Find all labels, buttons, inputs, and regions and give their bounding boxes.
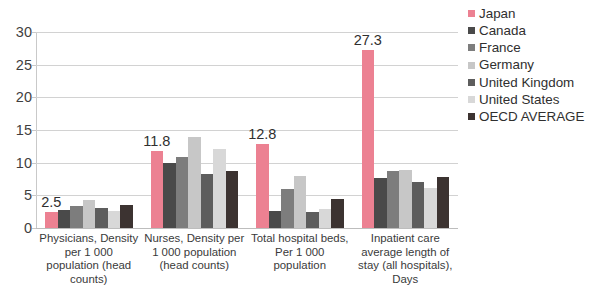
bar-group: 12.8 [247, 32, 353, 228]
bar-united-kingdom[interactable] [412, 182, 425, 228]
bar-united-kingdom[interactable] [201, 174, 214, 228]
bar-canada[interactable] [374, 178, 387, 228]
x-axis-label-line: average length of [355, 246, 457, 260]
y-axis: 302520151050 [0, 0, 36, 240]
x-axis-label-line: stay (all hospitals), [355, 259, 457, 273]
bar-japan[interactable] [45, 212, 58, 228]
x-axis-label: Nurses, Density per1 000 population(head… [142, 232, 248, 286]
y-tick-label: 0 [24, 221, 32, 236]
legend-item-france[interactable]: France [468, 39, 614, 56]
bar-groups: 2.511.812.827.3 [36, 32, 458, 228]
bar-group: 27.3 [353, 32, 459, 228]
x-axis-label-line: Per 1 000 [249, 246, 351, 260]
bar-france[interactable] [281, 189, 294, 228]
legend-swatch-icon [468, 44, 475, 51]
legend-swatch-icon [468, 27, 475, 34]
x-axis-label-line: Physicians, Density [38, 232, 140, 246]
legend-item-japan[interactable]: Japan [468, 5, 614, 22]
bar-germany[interactable] [188, 137, 201, 228]
bar-group: 2.5 [36, 32, 142, 228]
legend: JapanCanadaFranceGermanyUnited KingdomUn… [468, 5, 614, 125]
y-tick-label: 25 [16, 57, 32, 72]
bar-japan[interactable] [151, 151, 164, 228]
x-axis-label-line: Days [355, 273, 457, 287]
y-tick-label: 5 [24, 188, 32, 203]
x-axis-label-line: counts) [38, 273, 140, 287]
legend-label: Japan [479, 7, 515, 20]
bar-germany[interactable] [399, 170, 412, 228]
bar-japan[interactable] [362, 50, 375, 228]
x-axis-label: Physicians, Densityper 1 000population (… [36, 232, 142, 286]
x-axis-label-line: population [249, 259, 351, 273]
bar-oecd-average[interactable] [120, 205, 133, 228]
x-axis-label-line: (head counts) [144, 259, 246, 273]
legend-label: OECD AVERAGE [479, 110, 584, 123]
bar-value-label: 27.3 [354, 33, 382, 48]
legend-item-united-kingdom[interactable]: United Kingdom [468, 74, 614, 91]
bar-united-kingdom[interactable] [306, 212, 319, 228]
x-axis-label: Total hospital beds,Per 1 000population [247, 232, 353, 286]
bars [142, 32, 248, 228]
legend-label: Canada [479, 24, 526, 37]
legend-swatch-icon [468, 10, 475, 17]
bar-united-kingdom[interactable] [95, 208, 108, 228]
legend-item-canada[interactable]: Canada [468, 22, 614, 39]
bar-value-label: 12.8 [248, 127, 276, 142]
legend-label: United States [479, 93, 559, 106]
legend-swatch-icon [468, 113, 475, 120]
legend-label: United Kingdom [479, 76, 574, 89]
x-axis-label-line: Nurses, Density per [144, 232, 246, 246]
bar-united-states[interactable] [108, 211, 121, 228]
bar-germany[interactable] [83, 200, 96, 228]
x-axis-label-line: population (head [38, 259, 140, 273]
bar-japan[interactable] [256, 144, 269, 228]
y-tick-label: 20 [16, 90, 32, 105]
x-axis-category-labels: Physicians, Densityper 1 000population (… [36, 232, 458, 286]
plot-area: 2.511.812.827.3 [36, 32, 458, 228]
bar-oecd-average[interactable] [437, 177, 450, 228]
y-tickmark [32, 228, 36, 229]
y-tick-label: 10 [16, 155, 32, 170]
bar-united-states[interactable] [319, 209, 332, 228]
y-tick-label: 15 [16, 123, 32, 138]
gridline [36, 228, 458, 229]
bar-france[interactable] [70, 206, 83, 228]
x-axis-label-line: Inpatient care [355, 232, 457, 246]
legend-item-oecd-average[interactable]: OECD AVERAGE [468, 108, 614, 125]
bar-chart: 302520151050 2.511.812.827.3 Physicians,… [0, 0, 614, 296]
x-axis-label-line: Total hospital beds, [249, 232, 351, 246]
bar-oecd-average[interactable] [226, 171, 239, 228]
bar-group: 11.8 [142, 32, 248, 228]
y-tick-label: 30 [16, 25, 32, 40]
legend-item-united-states[interactable]: United States [468, 91, 614, 108]
x-axis-label-line: per 1 000 [38, 246, 140, 260]
x-axis-label: Inpatient careaverage length ofstay (all… [353, 232, 459, 286]
bar-oecd-average[interactable] [331, 199, 344, 228]
legend-swatch-icon [468, 79, 475, 86]
bar-value-label: 11.8 [143, 134, 170, 149]
legend-swatch-icon [468, 62, 475, 69]
bar-canada[interactable] [163, 163, 176, 228]
bar-united-states[interactable] [213, 149, 226, 228]
bar-united-states[interactable] [424, 188, 437, 228]
bar-france[interactable] [387, 171, 400, 228]
legend-label: Germany [479, 58, 534, 71]
bars [353, 32, 459, 228]
legend-item-germany[interactable]: Germany [468, 57, 614, 74]
bar-france[interactable] [176, 157, 189, 228]
x-axis-label-line: 1 000 population [144, 246, 246, 260]
legend-swatch-icon [468, 96, 475, 103]
bar-canada[interactable] [58, 210, 71, 228]
bar-canada[interactable] [269, 211, 282, 228]
bar-value-label: 2.5 [41, 195, 61, 210]
legend-label: France [479, 41, 521, 54]
bar-germany[interactable] [294, 176, 307, 228]
